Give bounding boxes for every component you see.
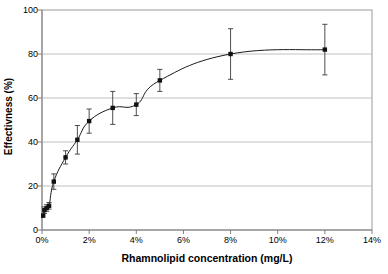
x-axis-title-text: Rhamnolipid concentration (mg/L) xyxy=(122,252,293,264)
x-axis-title: Rhamnolipid concentration (mg/L) xyxy=(42,252,372,264)
x-tick-label: 12% xyxy=(316,236,334,245)
data-point-marker xyxy=(87,119,91,123)
x-tick-label: 14% xyxy=(363,236,381,245)
x-tick-label: 2% xyxy=(83,236,96,245)
x-tick-label: 10% xyxy=(269,236,287,245)
x-axis-tick-labels: 0%2%4%6%8%10%12%14% xyxy=(0,236,388,250)
data-point-marker xyxy=(41,214,45,218)
data-point-marker xyxy=(75,138,79,142)
data-point-marker xyxy=(134,102,138,106)
x-tick-label: 8% xyxy=(224,236,237,245)
x-tick-label: 4% xyxy=(130,236,143,245)
data-point-marker xyxy=(63,155,67,159)
data-point-marker xyxy=(158,78,162,82)
plot-frame xyxy=(42,10,372,230)
plot-area xyxy=(0,0,388,274)
x-tick-label: 0% xyxy=(35,236,48,245)
chart-figure: Effectivness (%) 020406080100 0%2%4%6%8%… xyxy=(0,0,388,274)
data-point-marker xyxy=(228,52,232,56)
data-point-marker xyxy=(323,47,327,51)
x-tick-label: 6% xyxy=(177,236,190,245)
data-point-marker xyxy=(52,179,56,183)
data-point-marker xyxy=(47,204,51,208)
data-point-marker xyxy=(111,106,115,110)
